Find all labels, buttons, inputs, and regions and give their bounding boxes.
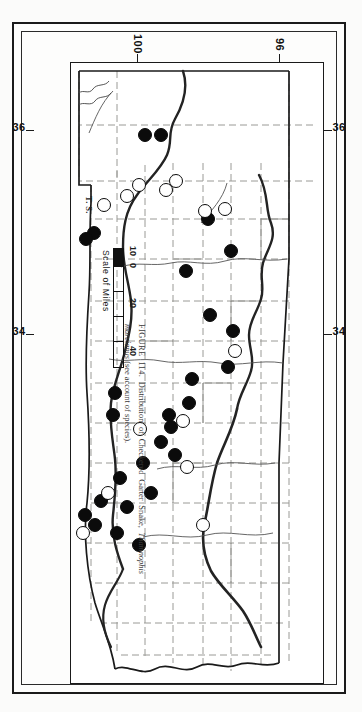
- locality-dot-solid: [179, 264, 193, 278]
- graticule-label-bottom-right: 34: [12, 325, 25, 337]
- caption-text-c: (see account of: [123, 361, 132, 412]
- locality-dot-open: [180, 460, 194, 474]
- figure-caption: FIGURE 114. Distribution of Checkered Ga…: [121, 324, 148, 574]
- scanned-sheet: 36 34 36 34 96 100 96 100: [0, 0, 362, 712]
- locality-dot-open: [176, 414, 190, 428]
- caption-text-d: species).: [123, 414, 132, 443]
- locality-dot-solid: [154, 128, 168, 142]
- locality-dot-open: [97, 198, 111, 212]
- figure-plate-frame: 36 34 36 34 96 100 96 100: [12, 22, 346, 694]
- locality-dot-open: [120, 189, 134, 203]
- graticule-tick-top-left: [324, 130, 332, 131]
- graticule-label-bottom-left: 36: [12, 121, 25, 133]
- figure-page: 36 34 36 34 96 100 96 100: [0, 0, 362, 712]
- locality-dot-solid: [106, 408, 120, 422]
- graticule-label-top-left: 36: [332, 121, 345, 133]
- figure-number: FIGURE 114.: [137, 324, 146, 377]
- graticule-label-left-lower: 100: [132, 34, 144, 54]
- locality-dot-solid: [88, 518, 102, 532]
- locality-dot-solid: [154, 435, 168, 449]
- locality-dot-open: [159, 183, 173, 197]
- rotation-wrapper: 36 34 36 34 96 100 96 100: [0, 0, 362, 712]
- locality-dot-open: [132, 178, 146, 192]
- graticule-tick-left-upper: [279, 54, 280, 62]
- locality-dot-solid: [79, 232, 93, 246]
- scale-tick-0: 0: [128, 263, 138, 268]
- locality-dot-solid: [221, 360, 235, 374]
- scale-seg-c: [114, 267, 123, 292]
- panhandle-water-detail: [79, 81, 111, 105]
- locality-dot-open: [198, 204, 212, 218]
- locality-dot-solid: [138, 128, 152, 142]
- scale-tick-20: 20: [128, 298, 138, 308]
- river-red: [103, 569, 123, 647]
- locality-dot-solid: [203, 308, 217, 322]
- caption-text-b: Snake,: [137, 505, 146, 528]
- graticule-tick-top-right: [324, 334, 332, 335]
- locality-dot-open: [196, 518, 210, 532]
- locality-dot-solid: [226, 324, 240, 338]
- graticule-label-left-upper: 96: [274, 38, 286, 51]
- scale-bar-label: Scale of Miles: [101, 250, 111, 312]
- locality-dot-open: [218, 202, 232, 216]
- locality-dot-open: [228, 344, 242, 358]
- locality-dot-solid: [168, 448, 182, 462]
- locality-dot-solid: [224, 244, 238, 258]
- scale-seg-d: [114, 292, 123, 317]
- locality-dot-solid: [182, 396, 196, 410]
- artist-initials: T. S.: [84, 196, 94, 214]
- caption-text-a: Distribution of Checkered Garter: [137, 382, 146, 501]
- scale-tick-10: 10: [128, 246, 138, 256]
- scale-seg-a: [114, 249, 123, 258]
- locality-dot-open: [76, 526, 90, 540]
- locality-dot-solid: [185, 372, 199, 386]
- graticule-tick-bottom-left: [26, 130, 34, 131]
- river-arkansas: [203, 409, 261, 647]
- graticule-label-top-right: 34: [332, 325, 345, 337]
- river-cimarron: [237, 175, 273, 409]
- graticule-tick-left-lower: [137, 54, 138, 62]
- locality-dot-open: [101, 486, 115, 500]
- graticule-tick-bottom-right: [26, 334, 34, 335]
- scale-seg-b: [114, 258, 123, 267]
